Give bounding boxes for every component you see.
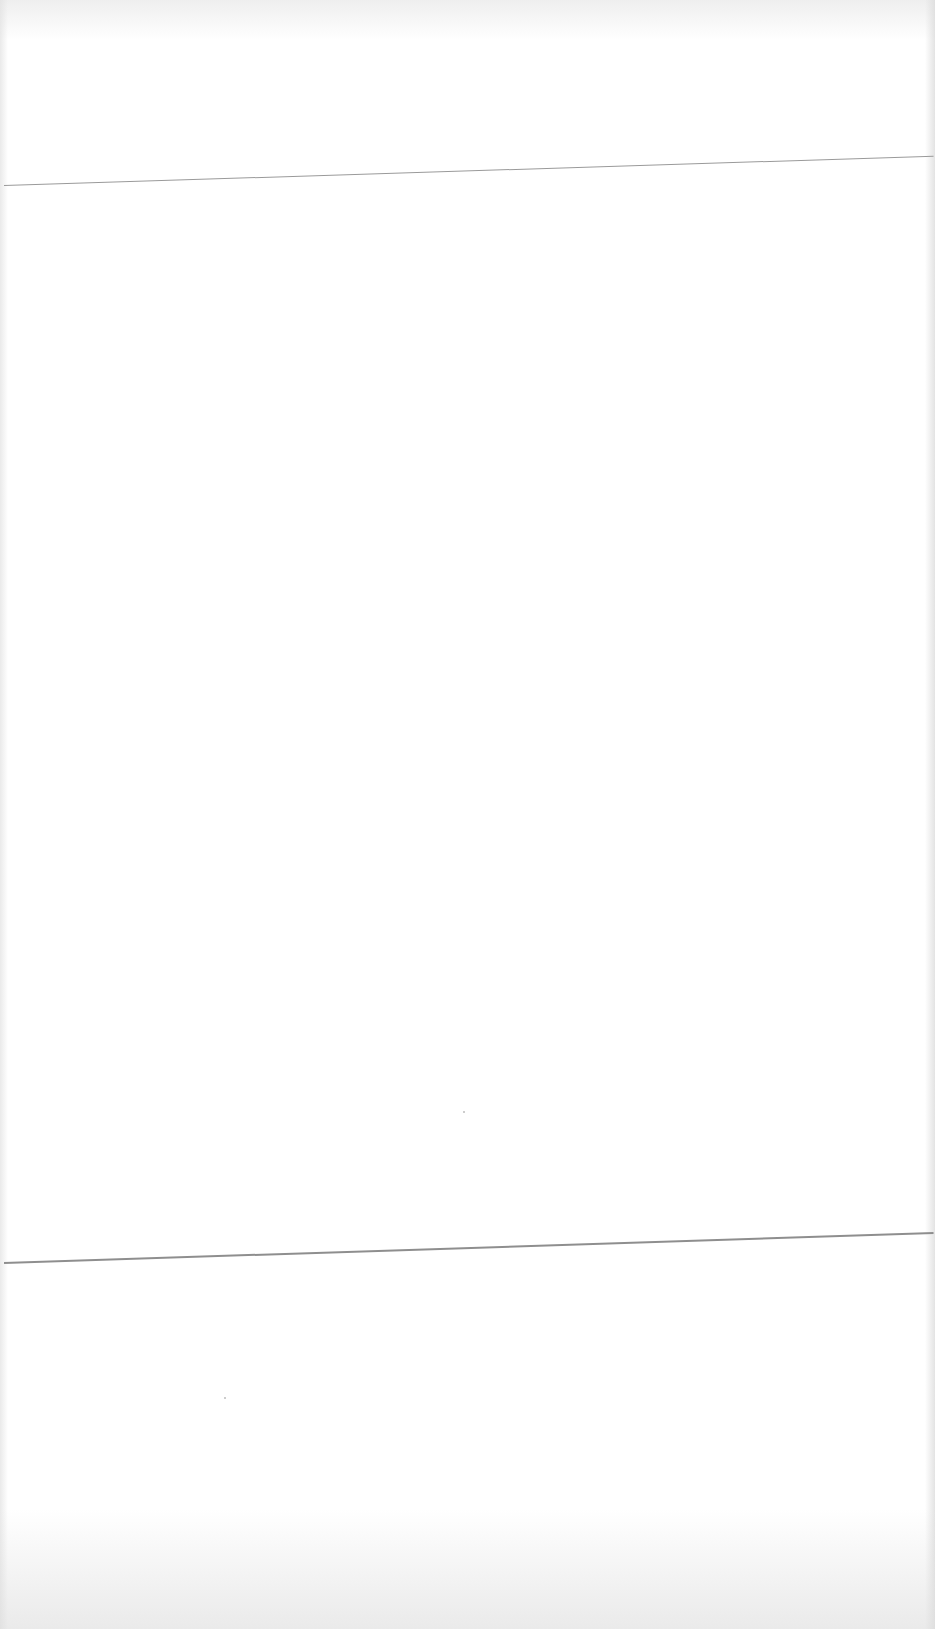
scanned-page <box>0 0 935 1629</box>
scan-speck <box>463 1111 465 1113</box>
scan-shadow-top <box>0 0 935 40</box>
bottom-horizontal-rule <box>4 1232 934 1264</box>
scan-shadow-left <box>0 0 8 1629</box>
scan-shadow-bottom <box>0 1509 935 1629</box>
top-horizontal-rule <box>4 156 934 186</box>
scan-speck <box>224 1397 226 1399</box>
scan-shadow-right <box>925 0 935 1629</box>
